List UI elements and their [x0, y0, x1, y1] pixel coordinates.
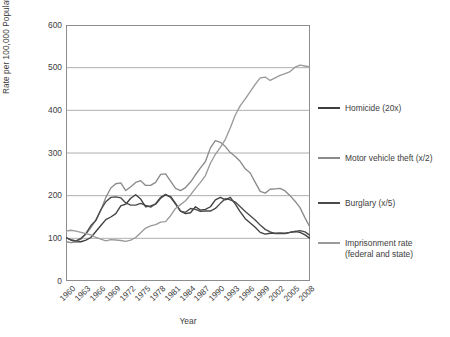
plot-series-layer: [66, 25, 310, 281]
x-tick-label: 1996: [222, 284, 257, 319]
y-axis-tick-labels: 0100200300400500600: [22, 0, 62, 337]
series-line-3: [66, 194, 310, 241]
series-line-1: [66, 195, 310, 242]
y-tick-label: 500: [22, 63, 62, 72]
legend-color-swatch: [318, 202, 340, 204]
legend-item[interactable]: Motor vehicle theft (x/2): [318, 153, 450, 164]
legend-label: Imprisonment rate (federal and state): [345, 238, 413, 259]
x-tick-label: 1963: [58, 284, 93, 319]
x-tick-label: 1966: [73, 284, 108, 319]
x-tick-label: 1987: [177, 284, 212, 319]
legend-item[interactable]: Homicide (20x): [318, 103, 450, 114]
x-tick-label: 1969: [88, 284, 123, 319]
x-tick-label: 1978: [132, 284, 167, 319]
y-tick-label: 200: [22, 191, 62, 200]
y-tick-label: 0: [22, 277, 62, 286]
x-tick-label: 1990: [192, 284, 227, 319]
x-axis-title: Year: [66, 316, 310, 326]
legend-label: Motor vehicle theft (x/2): [345, 153, 433, 164]
legend-item[interactable]: Burglary (x/5): [318, 198, 450, 209]
x-tick-label: 1999: [237, 284, 272, 319]
y-tick-label: 400: [22, 106, 62, 115]
x-tick-label: 2005: [267, 284, 302, 319]
y-axis-title: Rate per 100,000 Population: [2, 0, 16, 94]
x-tick-label: 2008: [282, 284, 317, 319]
x-tick-label: 1993: [207, 284, 242, 319]
series-lines: [66, 65, 310, 242]
y-tick-label: 600: [22, 21, 62, 30]
legend-label: Burglary (x/5): [345, 198, 395, 209]
x-tick-label: 1975: [117, 284, 152, 319]
legend-color-swatch: [318, 157, 340, 159]
x-tick-label: 2002: [252, 284, 287, 319]
legend-color-swatch: [318, 107, 340, 109]
x-tick-label: 1981: [147, 284, 182, 319]
chart-legend: Homicide (20x)Motor vehicle theft (x/2)B…: [318, 25, 450, 281]
y-tick-label: 300: [22, 149, 62, 158]
x-tick-label: 1984: [162, 284, 197, 319]
legend-item[interactable]: Imprisonment rate (federal and state): [318, 238, 450, 259]
legend-color-swatch: [318, 242, 340, 244]
crime-rates-line-chart: Rate per 100,000 Population 010020030040…: [0, 0, 450, 337]
series-line-2: [66, 141, 310, 243]
legend-label: Homicide (20x): [345, 103, 401, 114]
x-tick-label: 1972: [102, 284, 137, 319]
y-tick-label: 100: [22, 234, 62, 243]
